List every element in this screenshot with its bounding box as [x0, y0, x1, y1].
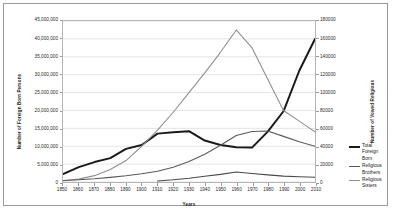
y-axis-right-tickmark — [316, 111, 319, 112]
x-axis-tickmark — [141, 183, 142, 186]
y-axis-right-tickmark — [316, 129, 319, 130]
y-axis-left-tick-label: 5,000,000 — [16, 162, 58, 167]
x-axis-tickmark — [126, 183, 127, 186]
y-axis-left-tick-label: 30,000,000 — [16, 72, 58, 77]
chart-screenshot: Number of Foreign Born Persons Number of… — [0, 0, 398, 218]
x-axis-tickmark — [205, 183, 206, 186]
x-axis-tickmark — [189, 183, 190, 186]
series-line — [63, 30, 315, 181]
y-axis-left-tick-label: 35,000,000 — [16, 54, 58, 59]
legend-swatch-icon — [349, 146, 360, 148]
y-axis-left-tick-label: 10,000,000 — [16, 144, 58, 149]
gridlines — [63, 21, 315, 182]
x-axis-tickmark — [300, 183, 301, 186]
x-axis-tickmark — [268, 183, 269, 186]
y-axis-right-tickmark — [316, 74, 319, 75]
x-axis-tickmark — [157, 183, 158, 186]
y-axis-right-tick-label: 180000 — [320, 17, 360, 22]
x-axis-tickmark — [316, 183, 317, 186]
y-axis-right-tickmark — [316, 147, 319, 148]
y-axis-right-tickmark — [316, 165, 319, 166]
y-axis-left-tick-label: 15,000,000 — [16, 126, 58, 131]
y-axis-right-tick-label: 160000 — [320, 36, 360, 41]
legend-item[interactable]: Total Foreign Born — [349, 143, 398, 162]
y-axis-right-tickmark — [316, 56, 319, 57]
y-axis-left-tick-label: 20,000,000 — [16, 108, 58, 113]
data-series — [63, 30, 315, 181]
plot-area — [62, 20, 316, 183]
y-axis-right-tick-label: 60000 — [320, 126, 360, 131]
y-axis-right-tick-label: 120000 — [320, 72, 360, 77]
y-axis-left-tick-label: 40,000,000 — [16, 36, 58, 41]
y-axis-right-tick-label: 80000 — [320, 108, 360, 113]
x-axis-tickmark — [94, 183, 95, 186]
x-axis-title: Years — [59, 202, 319, 207]
legend-label: Total Foreign Born — [362, 143, 398, 162]
y-axis-right-tickmark — [316, 20, 319, 21]
y-axis-left-tick-label: 25,000,000 — [16, 90, 58, 95]
x-axis-tickmark — [237, 183, 238, 186]
y-axis-right-tick-label: 100000 — [320, 90, 360, 95]
x-axis-tickmark — [221, 183, 222, 186]
legend-swatch-icon — [349, 180, 360, 181]
legend-label: Religious Brothers — [362, 163, 398, 176]
x-axis-tickmark — [173, 183, 174, 186]
legend-swatch-icon — [349, 166, 360, 167]
x-axis-tickmark — [284, 183, 285, 186]
y-axis-right-tickmark — [316, 92, 319, 93]
x-axis-tickmark — [62, 183, 63, 186]
legend-label: Religious Sisters — [362, 177, 398, 190]
x-axis-tickmark — [253, 183, 254, 186]
plot-svg — [63, 21, 315, 182]
x-axis-tick-label: 2010 — [303, 187, 329, 192]
chart-frame: Number of Foreign Born Persons Number of… — [3, 3, 388, 206]
series-line — [158, 172, 316, 181]
y-axis-left-tick-label: 45,000,000 — [16, 17, 58, 22]
chart-legend: Total Foreign BornReligious BrothersReli… — [349, 143, 398, 191]
x-axis-tickmark — [110, 183, 111, 186]
y-axis-left-tick-label: 0 — [16, 180, 58, 185]
y-axis-right-tickmark — [316, 38, 319, 39]
y-axis-right-tick-label: 140000 — [320, 54, 360, 59]
legend-item[interactable]: Religious Brothers — [349, 163, 398, 176]
x-axis-tickmark — [78, 183, 79, 186]
legend-item[interactable]: Religious Sisters — [349, 177, 398, 190]
series-line — [63, 39, 315, 174]
